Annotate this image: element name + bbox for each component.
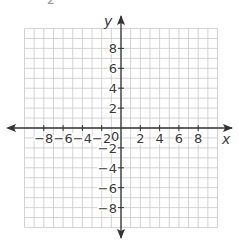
x-tick-label: −6 xyxy=(54,131,73,146)
y-tick-label: −8 xyxy=(98,201,117,216)
x-tick-label: 4 xyxy=(155,131,163,146)
x-tick-label: 6 xyxy=(175,131,183,146)
y-tick-label: 4 xyxy=(109,81,117,96)
y-tick-label: 2 xyxy=(109,101,117,116)
x-tick-label: −4 xyxy=(73,131,92,146)
coordinate-plane: 2 −8−6−4−224688642−2−4−6−8 x y 0 xyxy=(0,0,239,241)
y-tick-label: 8 xyxy=(109,41,117,56)
y-axis-label: y xyxy=(103,13,113,29)
x-tick-label: 2 xyxy=(136,131,144,146)
origin-label: 0 xyxy=(111,129,119,144)
cropped-text-fragment: 2 xyxy=(47,0,55,7)
x-tick-label: 8 xyxy=(194,131,202,146)
y-tick-label: 6 xyxy=(109,61,117,76)
x-axis-label: x xyxy=(221,131,231,147)
y-tick-label: −4 xyxy=(98,161,117,176)
y-tick-label: −6 xyxy=(98,181,117,196)
x-tick-label: −8 xyxy=(34,131,53,146)
